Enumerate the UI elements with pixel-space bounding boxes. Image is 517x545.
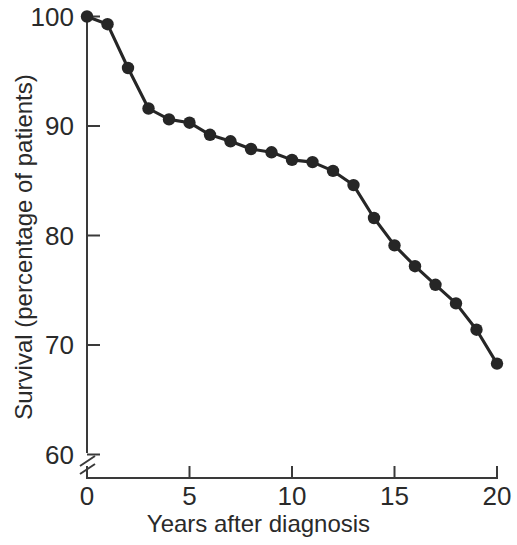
x-tick-marks [87,466,497,478]
x-tick-label-10: 10 [278,483,307,509]
plot-area [0,0,517,545]
data-point [183,117,195,129]
survival-line [87,17,497,364]
data-point [368,212,380,224]
data-point [306,156,318,168]
y-axis-title: Survival (percentage of patients) [10,7,38,487]
data-point [491,357,503,369]
axes-group [80,14,497,478]
data-point [101,18,113,30]
data-point [429,279,441,291]
x-tick-label-0: 0 [80,483,94,509]
y-tick-marks [87,17,100,455]
data-series-survival [81,10,503,370]
survival-chart: 60708090100 05101520 Years after diagnos… [0,0,517,545]
data-point [81,10,93,22]
data-point [286,154,298,166]
data-point [245,143,257,155]
data-point [224,135,236,147]
data-point [142,102,154,114]
data-point [388,239,400,251]
data-point [122,62,134,74]
data-point [409,260,421,272]
x-axis-title: Years after diagnosis [0,510,517,538]
x-tick-label-20: 20 [483,483,512,509]
data-point [347,179,359,191]
data-point [204,129,216,141]
data-point [265,146,277,158]
data-point [163,113,175,125]
x-tick-label-5: 5 [182,483,196,509]
data-point [327,165,339,177]
x-tick-label-15: 15 [380,483,409,509]
data-point [450,297,462,309]
survival-markers [81,10,503,370]
data-point [470,324,482,336]
